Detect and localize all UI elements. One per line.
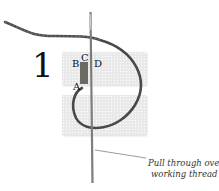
caption-leader-line (95, 150, 146, 158)
point-d-label: D (94, 59, 102, 69)
working-thread (5, 22, 141, 128)
point-b-label: B (72, 59, 79, 69)
caption-line-1: Pull through over (148, 158, 219, 169)
point-c-label: C (81, 53, 89, 63)
stitch-diagram: 1 B C D A Pull through over working thre… (0, 0, 219, 191)
point-a-label: A (73, 82, 80, 92)
stitch-block (80, 62, 88, 84)
caption: Pull through over working thread (148, 158, 219, 180)
step-number: 1 (32, 48, 54, 82)
caption-line-2: working thread (148, 169, 219, 180)
